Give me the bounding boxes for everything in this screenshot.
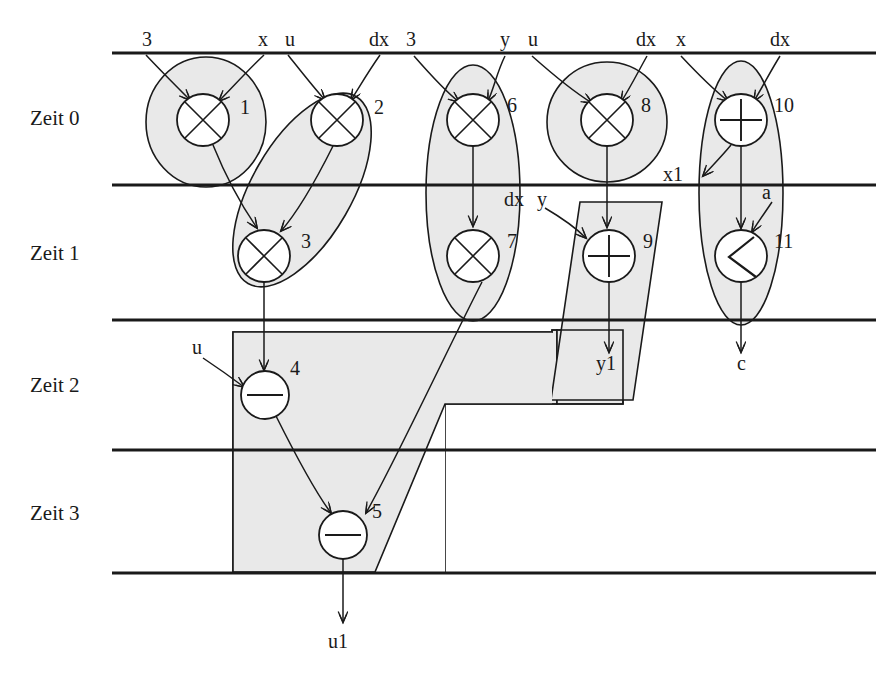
time-step-label-1: Zeit 1 xyxy=(30,241,80,265)
edge-in-dx-to-op2 xyxy=(351,55,380,100)
op-node-6[interactable] xyxy=(447,94,499,146)
signal-label-a: a xyxy=(762,181,771,203)
op-node-10[interactable] xyxy=(715,94,767,146)
input-label-u2: u xyxy=(528,28,538,50)
signal-label-dx4: dx xyxy=(504,188,524,210)
signal-label-x1: x1 xyxy=(663,163,683,185)
op-number-1: 1 xyxy=(240,96,250,118)
op-number-5: 5 xyxy=(372,500,382,522)
op-number-9: 9 xyxy=(643,230,653,252)
op-number-3: 3 xyxy=(301,230,311,252)
op-node-2[interactable] xyxy=(311,94,363,146)
op-number-10: 10 xyxy=(774,94,794,116)
op-node-8[interactable] xyxy=(581,94,633,146)
op-number-7: 7 xyxy=(507,230,517,252)
time-step-label-2: Zeit 2 xyxy=(30,373,80,397)
input-label-x2: x xyxy=(676,28,686,50)
output-label-c: c xyxy=(737,352,746,374)
op-node-9[interactable] xyxy=(583,230,635,282)
op-number-6: 6 xyxy=(507,94,517,116)
op-node-1[interactable] xyxy=(177,94,229,146)
output-label-u1: u1 xyxy=(328,630,348,652)
op-number-8: 8 xyxy=(641,94,651,116)
input-label-3a: 3 xyxy=(142,28,152,50)
op-number-2: 2 xyxy=(374,96,384,118)
op-node-7[interactable] xyxy=(447,230,499,282)
time-step-label-0: Zeit 0 xyxy=(30,106,80,130)
input-label-x: x xyxy=(258,28,268,50)
op-node-4[interactable] xyxy=(241,371,289,419)
time-step-label-3: Zeit 3 xyxy=(30,501,80,525)
signal-label-u3: u xyxy=(192,336,202,358)
op-node-11[interactable] xyxy=(715,230,767,282)
op-node-5[interactable] xyxy=(319,511,367,559)
input-label-dx3: dx xyxy=(770,28,790,50)
diagram-canvas: Zeit 0 Zeit 1 Zeit 2 Zeit 3 3 x u dx 3 y… xyxy=(0,0,896,692)
op-node-11-circle xyxy=(715,230,767,282)
op-number-4: 4 xyxy=(290,357,300,379)
input-label-u: u xyxy=(285,28,295,50)
input-label-dx2: dx xyxy=(636,28,656,50)
op-number-11: 11 xyxy=(774,230,793,252)
input-label-y: y xyxy=(500,28,510,51)
signal-label-y2: y xyxy=(537,188,547,211)
op-node-3[interactable] xyxy=(238,230,290,282)
input-label-dx: dx xyxy=(369,28,389,50)
input-label-3b: 3 xyxy=(406,28,416,50)
edge-in-u-to-op2 xyxy=(288,55,325,100)
scheduling-diagram-svg: Zeit 0 Zeit 1 Zeit 2 Zeit 3 3 x u dx 3 y… xyxy=(0,0,896,692)
output-label-y1: y1 xyxy=(596,352,616,375)
